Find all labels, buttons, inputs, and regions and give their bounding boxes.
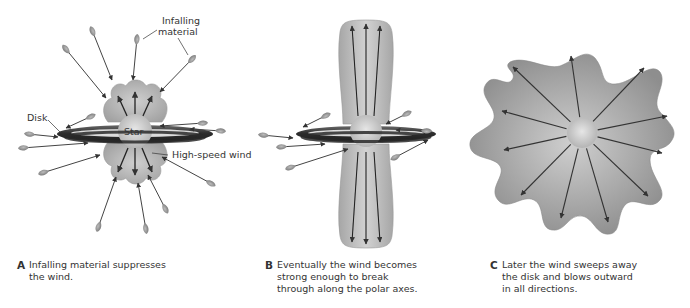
caption-a: A Infalling material suppresses the wind… [17,259,167,283]
caption-text: Infalling material suppresses the wind. [17,259,167,283]
infall-arrow [22,143,88,148]
infall-arrow [98,177,116,228]
infall-arrow [162,157,212,184]
label-star: Star [124,126,144,137]
infalling-blob-icon [134,34,140,45]
infall-arrow [42,155,100,173]
infalling-blob-icon [85,112,97,121]
leader-line [178,38,188,55]
infalling-blob-icon [284,163,296,171]
infall-arrow [65,48,106,98]
infalling-blob-icon [142,223,149,235]
infalling-blob-icon [389,152,401,162]
infalling-blob-icon [37,168,49,176]
infalling-blob-icon [401,109,413,119]
caption-text: Later the wind sweeps away the disk and … [490,259,640,295]
caption-letter: B [265,259,273,271]
star [567,118,597,148]
infall-arrow [92,30,112,80]
infall-arrow [138,183,146,230]
infalling-blob-icon [197,120,208,126]
caption-letter: A [17,259,25,271]
infalling-blob-icon [215,128,226,134]
infalling-blob-icon [24,131,35,137]
caption-letter: C [490,259,498,271]
infalling-blob-icon [160,203,170,215]
panel-c [470,54,674,234]
label-infalling-line1: Infalling [162,15,200,26]
label-high-speed-wind: High-speed wind [172,149,251,160]
infalling-blob-icon [205,178,217,188]
label-infalling-line2: material [158,26,198,37]
infalling-blob-icon [18,145,29,151]
infalling-blob-icon [320,111,332,121]
caption-c: C Later the wind sweeps away the disk an… [490,259,640,295]
infalling-blob-icon [88,25,97,37]
infalling-blob-icon [94,221,103,233]
infalling-blob-icon [258,132,269,138]
infall-arrow [289,149,348,168]
label-disk: Disk [27,112,48,123]
infall-arrow [160,58,193,92]
panel-b [258,20,436,248]
infalling-blob-icon [276,144,287,150]
caption-b: B Eventually the wind becomes strong eno… [265,259,425,295]
caption-text: Eventually the wind becomes strong enoug… [265,259,425,295]
leader-line [143,30,157,39]
leader-line [48,120,60,132]
panel-a: Infalling material Disk Star High-speed … [18,15,252,234]
